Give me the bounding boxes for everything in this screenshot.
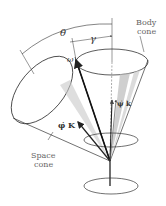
gamma-label: γ <box>90 33 96 44</box>
omega-label: ω <box>67 55 74 64</box>
phi-dot-K-vector <box>78 122 110 161</box>
body-cone-label-line2: cone <box>137 27 156 36</box>
body-cone-label-line1: Body <box>136 18 157 27</box>
psi-dot-k-label: ψ̇ k <box>117 99 131 108</box>
space-cone-label-line1: Space <box>31 151 56 160</box>
theta-label: θ <box>60 27 66 38</box>
space-cone <box>0 45 110 161</box>
diagram-canvas: θ γ ω Body cone Space cone φ̇ K ψ̇ k <box>0 0 166 206</box>
space-cone-label-line2: cone <box>34 160 53 169</box>
phi-dot-K-label: φ̇ K <box>58 120 76 130</box>
theta-arc <box>22 24 112 54</box>
